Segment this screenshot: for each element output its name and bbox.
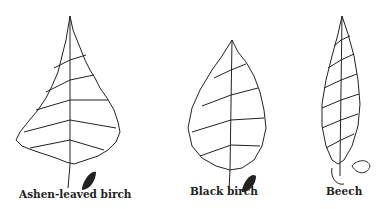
label-black-birch: Black birch — [190, 185, 258, 197]
label-beech: Beech — [326, 185, 362, 197]
beech-leaf-icon — [322, 16, 360, 184]
black-birch-leaf-icon — [188, 40, 266, 190]
ashen-leaved-birch-leaf-icon — [16, 16, 120, 188]
leaf-illustrations — [0, 0, 384, 209]
beech-nut-icon — [352, 161, 370, 173]
label-ashen-leaved-birch: Ashen-leaved birch — [19, 188, 132, 200]
